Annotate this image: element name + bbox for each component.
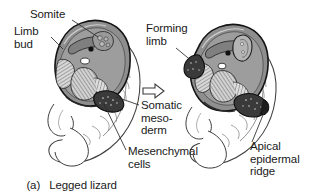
label-apical-epidermal-ridge: Apical epidermal ridge	[250, 140, 300, 178]
left-notochord	[88, 46, 93, 51]
transition-arrow-icon	[143, 84, 164, 98]
label-somite: Somite	[30, 8, 65, 21]
caption-text: Legged lizard	[49, 179, 117, 191]
caption-tag: (a)	[26, 179, 40, 191]
right-anterior-limb-bud	[184, 55, 205, 79]
right-notochord	[225, 50, 230, 55]
leader-forming-limb	[176, 48, 193, 62]
label-limb-bud: Limb bud	[14, 25, 39, 50]
label-mesenchymal-cells: Mesenchymal cells	[128, 145, 198, 170]
label-forming-limb: Forming limb	[146, 22, 187, 47]
figure-caption: (a)Legged lizard	[14, 166, 117, 194]
right-somite	[233, 35, 252, 61]
figure-legged-lizard-limb-development: Somite Limb bud Forming limb Somatic mes…	[0, 0, 318, 194]
label-somatic-mesoderm: Somatic meso- derm	[141, 99, 182, 137]
left-limb-bud	[94, 91, 124, 112]
right-lateral-plate-mesoderm	[210, 71, 238, 103]
left-somite	[93, 32, 114, 51]
right-dorsal-aorta	[218, 63, 226, 69]
left-dorsal-aorta	[81, 58, 90, 64]
left-embryo-panel	[48, 20, 140, 166]
left-embryo-ventral-flap	[48, 104, 88, 166]
